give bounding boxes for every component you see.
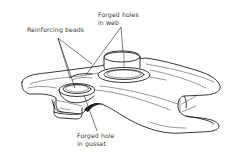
label-text-line1: Forged holes: [98, 11, 139, 19]
label-text: Reinforcing beads: [27, 26, 84, 34]
label-reinforcing-beads: Reinforcing beads: [27, 26, 84, 34]
label-text-line2: in gusset: [77, 140, 115, 148]
label-text-line1: Forged hole: [77, 132, 115, 140]
label-text-line2: in web: [98, 19, 139, 27]
forged-part-diagram: Reinforcing beads Forged holes in web Fo…: [0, 0, 233, 158]
label-forged-hole-in-gusset: Forged hole in gusset: [77, 132, 115, 147]
label-forged-holes-in-web: Forged holes in web: [98, 11, 139, 26]
